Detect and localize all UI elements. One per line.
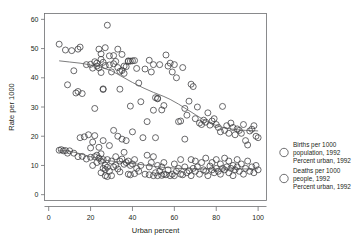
chart-figure: 0102030405060 020406080100 Urban percent…: [0, 0, 362, 245]
figure-background: [0, 0, 362, 245]
legend-deaths-line2: people, 1992: [293, 175, 330, 183]
y-tick-label: 40: [31, 74, 39, 81]
x-tick-label: 20: [87, 214, 95, 221]
legend-deaths-line3: Percent urban, 1992: [293, 183, 351, 190]
x-tick-label: 40: [129, 214, 137, 221]
x-axis-title: Urban percent: [132, 226, 180, 235]
x-tick-label: 100: [252, 214, 264, 221]
y-axis-title: Rate per 1000: [7, 83, 16, 131]
legend-births-line2: population, 1992: [293, 149, 341, 157]
y-tick-label: 50: [31, 45, 39, 52]
y-tick-label: 20: [31, 133, 39, 140]
x-tick-label: 0: [47, 214, 51, 221]
y-tick-label: 60: [31, 16, 39, 23]
y-tick-label: 30: [31, 104, 39, 111]
y-tick-label: 0: [35, 191, 39, 198]
y-tick-label: 10: [31, 162, 39, 169]
legend-births-line1: Births per 1000: [293, 141, 337, 149]
legend-deaths-line1: Deaths per 1000: [293, 167, 341, 175]
legend-births-line3: Percent urban, 1992: [293, 157, 351, 164]
x-tick-label: 80: [212, 214, 220, 221]
scatter-plot-canvas: 0102030405060 020406080100 Urban percent…: [0, 0, 362, 245]
x-tick-label: 60: [170, 214, 178, 221]
